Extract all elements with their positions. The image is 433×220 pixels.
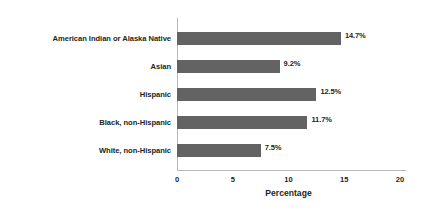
category-label: Hispanic: [1, 88, 171, 101]
bar: [177, 32, 341, 45]
x-axis-tick-label: 5: [218, 175, 248, 184]
x-axis-tick-label: 0: [162, 175, 192, 184]
bar-value-label: 9.2%: [284, 59, 301, 68]
bar-value-label: 11.7%: [311, 115, 331, 124]
category-label: Black, non-Hispanic: [1, 116, 171, 129]
bar: [177, 60, 280, 73]
category-label: White, non-Hispanic: [1, 144, 171, 157]
x-axis-line: [177, 170, 406, 171]
x-axis-tick-label: 10: [274, 175, 304, 184]
category-label: American Indian or Alaska Native: [1, 32, 171, 45]
x-axis-tick-label: 20: [385, 175, 415, 184]
bar-row: American Indian or Alaska Native 14.7%: [177, 25, 400, 53]
bar-row: Black, non-Hispanic 11.7%: [177, 109, 400, 137]
bar-row: White, non-Hispanic 7.5%: [177, 137, 400, 165]
bar-value-label: 7.5%: [265, 143, 282, 152]
bar: [177, 116, 307, 129]
x-axis-title: Percentage: [177, 188, 400, 198]
bar-chart: American Indian or Alaska Native 14.7% A…: [0, 0, 433, 220]
bar-value-label: 14.7%: [345, 31, 366, 40]
plot-area: American Indian or Alaska Native 14.7% A…: [177, 18, 400, 170]
bar: [177, 88, 316, 101]
bar-row: Hispanic 12.5%: [177, 81, 400, 109]
category-label: Asian: [1, 60, 171, 73]
bar: [177, 144, 261, 157]
x-axis-tick-label: 15: [329, 175, 359, 184]
bar-row: Asian 9.2%: [177, 53, 400, 81]
bar-value-label: 12.5%: [320, 87, 341, 96]
